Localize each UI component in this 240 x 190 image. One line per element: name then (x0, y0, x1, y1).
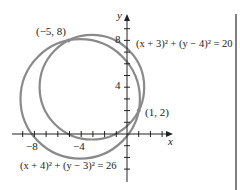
graph: x y −8 −4 4 8 (−5, 8) (1, 2) (x + 3)² + … (0, 0, 240, 190)
point-label-1-2: (1, 2) (145, 106, 169, 119)
equation-circle-1: (x + 3)² + (y − 4)² = 20 (136, 38, 232, 50)
point-1-2 (137, 109, 141, 113)
tick-label-8: 8 (115, 33, 121, 45)
point-label-neg5-8: (−5, 8) (36, 25, 66, 38)
tick-label-4: 4 (115, 79, 121, 91)
tick-label-neg4: −4 (73, 140, 85, 152)
tick-label-neg8: −8 (26, 140, 38, 152)
equation-circle-2: (x + 4)² + (y − 3)² = 26 (20, 160, 116, 172)
point-neg5-8 (67, 38, 71, 42)
y-axis-label: y (116, 9, 122, 21)
y-axis-arrow-icon (124, 14, 130, 21)
x-axis-label: x (167, 135, 173, 147)
